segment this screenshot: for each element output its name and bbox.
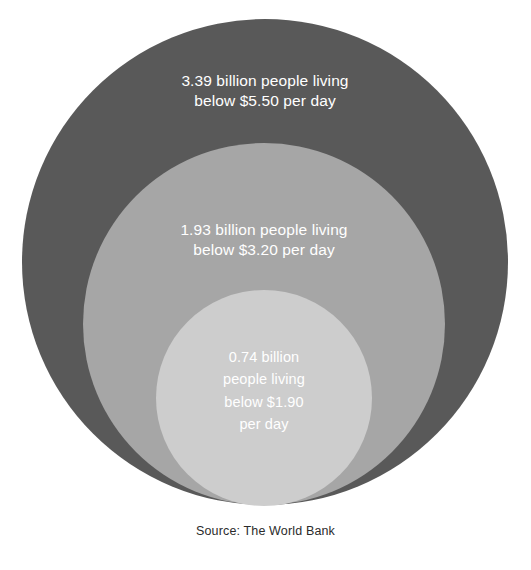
source-caption: Source: The World Bank — [0, 524, 531, 538]
circle-label-below-5-50: 3.39 billion people living below $5.50 p… — [22, 71, 508, 112]
circle-below-1-90: 0.74 billion people living below $1.90 p… — [156, 290, 372, 506]
circle-label-below-3-20: 1.93 billion people living below $3.20 p… — [83, 220, 445, 261]
poverty-nested-circle-chart: 3.39 billion people living below $5.50 p… — [0, 0, 531, 570]
circle-label-below-1-90: 0.74 billion people living below $1.90 p… — [156, 346, 372, 436]
